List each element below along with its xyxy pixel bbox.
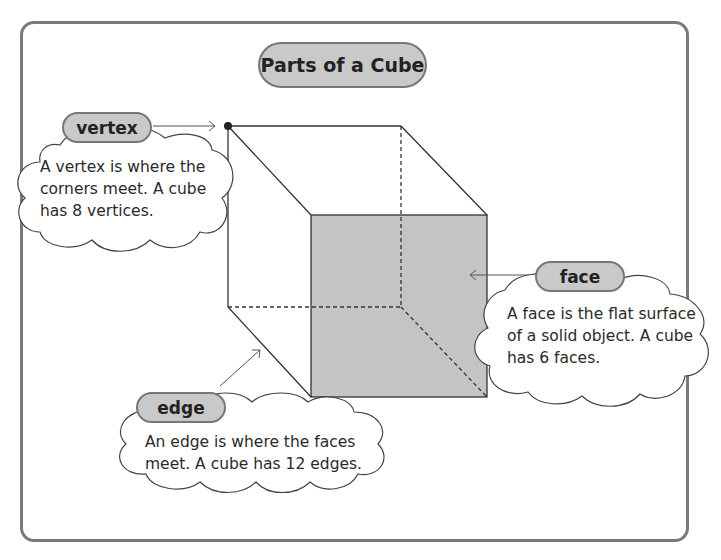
text-line: A face is the flat surface bbox=[507, 303, 696, 325]
text-line: of a solid object. A cube bbox=[507, 325, 696, 347]
text-line: has 8 vertices. bbox=[40, 200, 206, 222]
vertex-description: A vertex is where the corners meet. A cu… bbox=[40, 156, 206, 222]
text-line: has 6 faces. bbox=[507, 347, 696, 369]
vertex-label: vertex bbox=[62, 112, 152, 143]
page-title: Parts of a Cube bbox=[258, 42, 427, 88]
vertex-dot bbox=[224, 122, 232, 130]
face-label: face bbox=[535, 261, 625, 292]
text-line: meet. A cube has 12 edges. bbox=[145, 453, 362, 475]
face-description: A face is the flat surface of a solid ob… bbox=[507, 303, 696, 369]
edge-description: An edge is where the faces meet. A cube … bbox=[145, 431, 362, 475]
text-line: An edge is where the faces bbox=[145, 431, 362, 453]
text-line: corners meet. A cube bbox=[40, 178, 206, 200]
text-line: A vertex is where the bbox=[40, 156, 206, 178]
edge-label: edge bbox=[136, 392, 226, 423]
edge-arrow bbox=[220, 350, 260, 386]
